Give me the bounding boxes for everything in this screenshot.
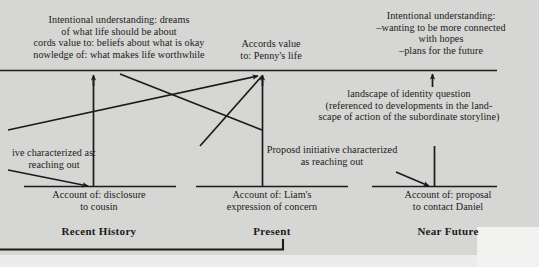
figure-canvas: Intentional understanding: dreams of wha… [0, 0, 539, 267]
annotation-intentional-understanding-left: Intentional understanding: dreams of wha… [0, 14, 242, 60]
annotation-landscape-of-identity-question: landscape of identity question (referenc… [292, 88, 526, 123]
annotation-characterized-as-reaching-out-left: ive characterized as: reaching out [0, 147, 114, 170]
annotation-accords-value-penny: Accords value to: Penny's life [208, 38, 334, 61]
account-label-proposal: Account of: proposal to contact Daniel [372, 189, 524, 212]
annotation-intentional-understanding-right: Intentional understanding: –wanting to b… [352, 10, 530, 56]
annotation-proposd-initiative: Proposd initiative characterized as reac… [250, 144, 414, 167]
period-label-recent-history: Recent History [24, 225, 174, 237]
diagonal-left-low-to-right-high [0, 74, 262, 120]
account-label-liam: Account of: Liam's expression of concern [196, 189, 348, 212]
account-label-disclosure: Account of: disclosure to cousin [24, 189, 174, 212]
period-label-near-future: Near Future [372, 225, 524, 237]
arrow-into-recent-history-base [8, 170, 88, 186]
arrow-into-near-future-base [396, 172, 429, 186]
timeline-rule [0, 239, 283, 250]
period-label-present: Present [196, 225, 348, 237]
